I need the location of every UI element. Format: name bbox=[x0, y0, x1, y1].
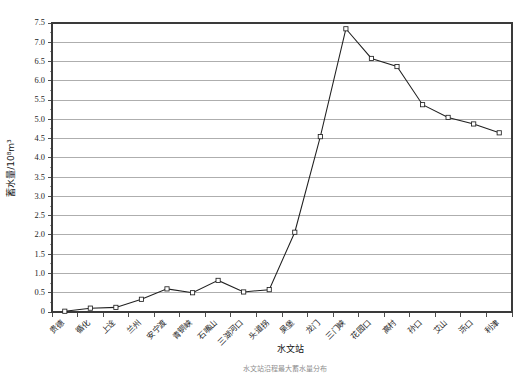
y-axis-title: 蓄水量/10⁸m³ bbox=[5, 139, 16, 197]
y-tick-label: 0.5 bbox=[35, 288, 45, 297]
x-tick-label: 利津 bbox=[482, 317, 500, 335]
x-tick-label: 青铜峡 bbox=[170, 317, 194, 341]
x-tick-label: 安宁渡 bbox=[144, 317, 168, 341]
data-point-marker bbox=[446, 115, 450, 119]
figure-caption: 水文站沿程最大蓄水量分布 bbox=[243, 364, 327, 373]
y-tick-label: 5.0 bbox=[35, 115, 45, 124]
x-tick-label: 兰州 bbox=[124, 317, 142, 335]
y-tick-label: 2.5 bbox=[35, 211, 45, 220]
y-tick-label: 5.5 bbox=[35, 95, 45, 104]
data-point-marker bbox=[88, 306, 92, 310]
x-tick-label: 三门峡 bbox=[323, 317, 347, 341]
y-tick-label: 7.5 bbox=[35, 18, 45, 27]
data-point-marker bbox=[139, 297, 143, 301]
x-tick-label: 贵德 bbox=[48, 317, 66, 335]
data-point-marker bbox=[369, 56, 373, 60]
data-point-marker bbox=[344, 27, 348, 31]
x-tick-label: 三湖河口 bbox=[215, 317, 245, 347]
y-tick-label: 4.5 bbox=[35, 134, 45, 143]
data-point-marker bbox=[216, 278, 220, 282]
y-tick-label: 3.0 bbox=[35, 192, 45, 201]
x-tick-marks-group bbox=[52, 312, 512, 317]
data-series-line bbox=[65, 29, 499, 311]
x-tick-label: 高村 bbox=[380, 317, 398, 335]
x-axis-tick-labels: 贵德循化上诠兰州安宁渡青铜峡石嘴山三湖河口头道拐吴堡龙门三门峡花园口高村孙口艾山… bbox=[48, 317, 501, 347]
data-point-marker bbox=[420, 103, 424, 107]
x-tick-label: 花园口 bbox=[349, 317, 373, 341]
y-tick-label: 1.0 bbox=[35, 269, 45, 278]
x-axis-title: 水文站 bbox=[277, 343, 304, 354]
y-tick-label: 2.0 bbox=[35, 230, 45, 239]
data-point-marker bbox=[63, 309, 67, 313]
gridlines-group bbox=[52, 42, 512, 292]
y-tick-label: 4.0 bbox=[35, 153, 45, 162]
data-point-marker bbox=[114, 305, 118, 309]
y-tick-label: 0 bbox=[41, 307, 45, 316]
data-point-marker bbox=[472, 122, 476, 126]
data-point-marker bbox=[165, 287, 169, 291]
plot-area-frame bbox=[52, 23, 512, 312]
x-tick-label: 孙口 bbox=[406, 317, 424, 335]
y-tick-label: 6.5 bbox=[35, 57, 45, 66]
y-tick-label: 6.0 bbox=[35, 76, 45, 85]
x-tick-label: 头道拐 bbox=[247, 317, 271, 341]
x-tick-label: 艾山 bbox=[431, 317, 449, 335]
data-point-marker bbox=[395, 64, 399, 68]
x-tick-label: 上诠 bbox=[99, 317, 117, 335]
data-point-marker bbox=[190, 291, 194, 295]
x-tick-label: 龙门 bbox=[303, 317, 321, 335]
data-point-marker bbox=[293, 230, 297, 234]
y-tick-label: 3.5 bbox=[35, 173, 45, 182]
x-tick-label: 石嘴山 bbox=[195, 317, 219, 341]
x-tick-label: 泺口 bbox=[457, 317, 475, 335]
data-point-marker bbox=[318, 135, 322, 139]
y-tick-marks-group bbox=[48, 23, 52, 312]
line-chart: 00.51.01.52.02.53.03.54.04.55.05.56.06.5… bbox=[0, 0, 530, 374]
y-axis-tick-labels: 00.51.01.52.02.53.03.54.04.55.05.56.06.5… bbox=[35, 18, 45, 316]
data-point-markers bbox=[63, 27, 502, 314]
x-tick-label: 循化 bbox=[73, 317, 91, 335]
data-point-marker bbox=[242, 290, 246, 294]
x-tick-label: 吴堡 bbox=[278, 317, 296, 335]
data-point-marker bbox=[497, 131, 501, 135]
y-tick-label: 1.5 bbox=[35, 250, 45, 259]
y-tick-label: 7.0 bbox=[35, 38, 45, 47]
chart-figure: 00.51.01.52.02.53.03.54.04.55.05.56.06.5… bbox=[0, 0, 530, 374]
data-point-marker bbox=[267, 288, 271, 292]
